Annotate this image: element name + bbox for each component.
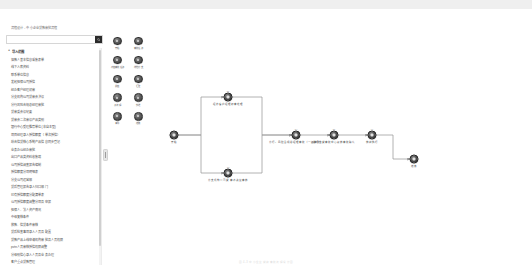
flow-node-label: 结束 [411, 164, 417, 168]
import-scope-tree: ∧ 导入范围 借款人基本信息采集表单线下入库资料联系单位信息发起担保公司授信经办… [6, 48, 102, 265]
tree-item[interactable]: 贷款产品上线申请机构审批及人员权限 [6, 236, 101, 244]
tree-item[interactable]: 项目经理录入授信额度（单次授信） [6, 131, 101, 139]
tree-item[interactable]: 公司授信额度调整分项及申报 [6, 198, 101, 206]
tree-item[interactable]: 发起担保公司授信 [6, 78, 101, 86]
palette-item-label: 并签 [115, 84, 119, 88]
flow-node[interactable] [330, 131, 339, 140]
flow-node[interactable] [224, 169, 233, 178]
palette-node-icon [134, 56, 142, 64]
palette-carbon-copy[interactable]: 抄送 [128, 93, 149, 106]
tree-item-list: 借款人基本信息采集表单线下入库资料联系单位信息发起担保公司授信经办客户经理初审分… [6, 56, 101, 265]
palette-item-label: 子流程 [114, 103, 120, 107]
flow-node-code: F6 [371, 128, 373, 130]
palette-item-label: 事件 [115, 121, 119, 125]
palette-item-label: 汇聚 [136, 84, 140, 88]
tree-group-label: 导入范围 [12, 49, 24, 54]
figure-caption: 图 4-3 中小企业贷款审批流程设计图 [0, 258, 532, 265]
flow-node-code: B2 [227, 90, 230, 92]
flow-node-code: C3 [227, 166, 230, 168]
palette-item-label: 开始 [115, 46, 119, 50]
flow-node[interactable] [170, 131, 179, 140]
chevron-up-icon: ∧ [8, 50, 10, 53]
tree-item[interactable]: pvtn人员审核授信权限调整 [6, 243, 101, 251]
palette-item-label: 审批任务 [134, 46, 142, 50]
palette-item-label: 抄送 [136, 103, 140, 107]
application-window: 流程设计 - 中小企业贷款审批流程 保存并发布 保 存 取 消 ∧ [0, 0, 532, 265]
tree-item[interactable]: 出口产品类资料收集端 [6, 153, 101, 161]
palette-node-icon [113, 112, 121, 120]
flow-node-label: 开始 [171, 140, 177, 144]
tree-item[interactable]: 公司授信调查报告编制 [6, 161, 101, 169]
flow-node-label: 分支机构公司贷审会决议审核 [208, 178, 248, 182]
tree-item[interactable]: 线下入库资料 [6, 63, 101, 71]
search-button[interactable] [95, 36, 102, 43]
flow-edge [178, 135, 225, 173]
flow-canvas[interactable]: 开始B2经办客户经理初审处理C3分支机构公司贷审会决议审核D4分行、风险合规总经… [150, 35, 528, 265]
search-icon [97, 38, 100, 41]
tree-group-header[interactable]: ∧ 导入范围 [6, 48, 101, 56]
flow-node-code: D4 [295, 128, 298, 130]
tree-item[interactable]: 放款、信贷条件审核 [6, 221, 101, 229]
flow-node-label: 经办客户经理初审处理 [213, 102, 244, 106]
palette-node-icon [113, 93, 121, 101]
palette-item-label: 会签审批任务 [111, 65, 123, 69]
search-input[interactable] [7, 36, 95, 43]
flow-node[interactable] [292, 131, 301, 140]
tree-item[interactable]: 经办客户经理初审 [6, 86, 101, 94]
search-bar [6, 35, 103, 44]
flow-node-code: E5 [333, 128, 336, 130]
tree-item[interactable]: 贷审会二次审议产品类别 [6, 116, 101, 124]
flow-node[interactable] [224, 93, 233, 102]
palette-item-label: 结束 [136, 121, 140, 125]
panel-splitter-handle[interactable] [103, 149, 108, 161]
tree-item[interactable]: 分支公司运营部 [6, 176, 101, 184]
palette-approval-task[interactable]: 审批任务 [128, 37, 149, 50]
tree-item[interactable]: 业务办公经办审批 [6, 146, 101, 154]
palette-item-label: 排他分支 [134, 65, 142, 69]
flow-edges [150, 35, 528, 265]
tree-item[interactable]: 分支机构公司贷审会决议 [6, 93, 101, 101]
palette-start[interactable]: 开始 [107, 37, 128, 50]
tree-item[interactable]: 银行中心受理推荐单位(非自主型) [6, 123, 101, 131]
tree-item[interactable]: 分行风险合规总经理审批 [6, 101, 101, 109]
tree-item[interactable]: 综合信贷核心系统产品信息同步登记 [6, 138, 101, 146]
palette-node-icon [134, 37, 142, 45]
page-surface: 流程设计 - 中小企业贷款审批流程 保存并发布 保 存 取 消 ∧ [0, 9, 532, 265]
tree-scrollbar-thumb[interactable] [99, 50, 101, 246]
tree-item[interactable]: 贷后管理报告录入归口部门 [6, 183, 101, 191]
tree-item[interactable]: 联系单位信息 [6, 71, 101, 79]
node-palette: 开始审批任务会签审批任务排他分支并签汇聚子流程抄送事件结束 [107, 37, 149, 125]
palette-exclusive-gateway[interactable]: 排他分支 [128, 56, 149, 69]
tree-item[interactable]: 已有授信额度分配清单表 [6, 191, 101, 199]
tree-item[interactable]: 贷后检查事项录入人员及配置 [6, 228, 101, 236]
tree-item[interactable]: 中级复核条件 [6, 213, 101, 221]
palette-converge[interactable]: 汇聚 [128, 75, 149, 88]
tree-scrollbar-track[interactable] [99, 48, 101, 265]
flow-node[interactable] [368, 131, 377, 140]
flow-node[interactable] [410, 155, 419, 164]
flow-node-label: 放款执行 [366, 140, 378, 144]
left-panel: ∧ 导入范围 借款人基本信息采集表单线下入库资料联系单位信息发起担保公司授信经办… [6, 35, 104, 265]
palette-countersign-task[interactable]: 会签审批任务 [107, 56, 128, 69]
palette-node-icon [113, 37, 121, 45]
palette-node-icon [134, 93, 142, 101]
palette-node-icon [134, 75, 142, 83]
palette-node-icon [113, 56, 121, 64]
tree-item[interactable]: 分级别信心录入人员及业务办理 [6, 251, 101, 259]
tree-item[interactable]: 借款人基本信息采集表单 [6, 56, 101, 64]
breadcrumb: 流程设计 - 中小企业贷款审批流程 [11, 25, 57, 30]
tree-item[interactable]: 贷审委会议纪要 [6, 108, 101, 116]
tree-item[interactable]: 担保人、法人资产情况 [6, 206, 101, 214]
palette-subprocess[interactable]: 子流程 [107, 93, 128, 106]
palette-node-icon [134, 112, 142, 120]
flow-node-label: 总行信贷审批中心复核审批确认 [313, 140, 356, 144]
palette-parallel-join[interactable]: 并签 [107, 75, 128, 88]
tree-item[interactable]: 授信额度分项明细表 [6, 168, 101, 176]
flow-edge [376, 135, 411, 159]
palette-end[interactable]: 结束 [128, 112, 149, 125]
palette-node-icon [113, 75, 121, 83]
palette-event[interactable]: 事件 [107, 112, 128, 125]
